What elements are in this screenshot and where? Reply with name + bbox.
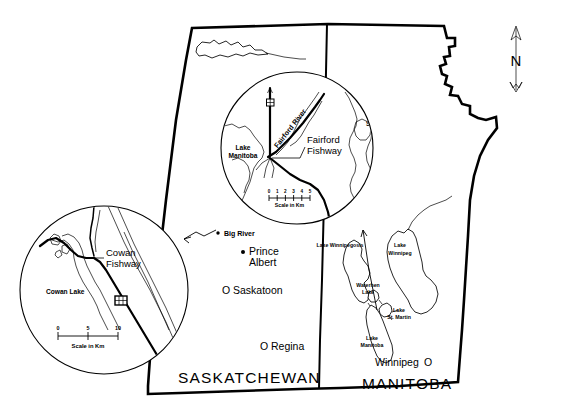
marker-regina: O <box>260 340 268 352</box>
label-waterhen-lake-line1: Waterhen <box>356 282 379 288</box>
label-saskatoon: Saskatoon <box>233 284 283 296</box>
marker-winnipeg: O <box>424 356 432 368</box>
fairford-fishway-title-line2: Fishway <box>307 145 342 156</box>
fairford-scale-tick-1: 1 <box>276 189 279 194</box>
marker-saskatoon: O <box>222 284 230 296</box>
cowan-inset: Cowan Fishway Cowan Lake 0 5 10 Scale in… <box>20 206 188 374</box>
cowan-fishway-title-line1: Cowan <box>106 247 136 258</box>
fairford-scale-tick-5: 5 <box>309 189 312 194</box>
label-manitoba: MANITOBA <box>362 375 452 392</box>
label-lake-winnipeg-line1: Lake <box>394 242 406 248</box>
marker-big-river <box>216 231 219 234</box>
map-canvas: Lake Winnipegosis Lake Winnipeg Waterhen… <box>0 0 576 417</box>
label-lake-manitoba-line1: Lake <box>366 335 378 341</box>
cowan-scale-caption: Scale in Km <box>72 343 105 349</box>
cowan-scale-tick-2: 10 <box>115 325 121 331</box>
map-figure: Lake Winnipegosis Lake Winnipeg Waterhen… <box>0 0 576 417</box>
marker-prince-albert <box>241 250 245 254</box>
label-big-river: Big River <box>224 230 255 238</box>
fairford-label-lake-manitoba-line2: Manitoba <box>229 152 258 159</box>
fairford-scale-tick-4: 4 <box>301 189 304 194</box>
label-lake-winnipeg-line2: Winnipeg <box>388 250 411 256</box>
cowan-scale-tick-1: 5 <box>87 325 90 331</box>
fairford-label-lake-manitoba-line1: Lake <box>235 144 250 151</box>
label-waterhen-lake-line2: Lake <box>362 289 374 295</box>
cowan-label-cowan-lake: Cowan Lake <box>46 288 85 295</box>
north-arrow-group: N <box>510 26 522 92</box>
fairford-scale-caption: Scale in Km <box>275 202 305 208</box>
cowan-fishway-title-line2: Fishway <box>106 258 141 269</box>
label-lake-st-martin-line1: Lake <box>393 307 405 313</box>
fairford-scale-tick-0: 0 <box>268 189 271 194</box>
fairford-scale-tick-2: 2 <box>284 189 287 194</box>
fairford-fishway-title-line1: Fairford <box>307 134 340 145</box>
cowan-scale-tick-0: 0 <box>57 325 60 331</box>
label-winnipeg: Winnipeg <box>375 356 419 368</box>
label-lake-st-martin-line2: St. Martin <box>387 314 411 320</box>
label-saskatchewan: SASKATCHEWAN <box>178 369 321 386</box>
fairford-scale-tick-3: 3 <box>292 189 295 194</box>
north-arrow-label: N <box>511 52 522 69</box>
label-lake-winnipegosis-line1: Lake Winnipegosis <box>317 242 364 248</box>
label-regina: Regina <box>271 340 304 352</box>
label-prince-albert-line2: Albert <box>249 256 277 268</box>
label-lake-manitoba-line2: Manitoba <box>361 342 384 348</box>
